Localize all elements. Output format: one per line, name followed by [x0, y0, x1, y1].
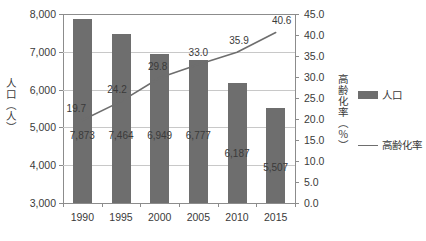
right-axis-tick-label: 25.0	[304, 93, 324, 104]
left-axis-tick-label: 6,000	[30, 85, 56, 96]
right-axis-tick	[295, 98, 299, 99]
right-axis-tick	[295, 35, 299, 36]
left-axis-tick-label: 8,000	[30, 9, 56, 20]
right-axis-tick-label: 20.0	[304, 114, 324, 125]
legend-item-aging-rate[interactable]: 高齢化率	[358, 134, 424, 156]
right-axis-title: 高齢化率（％）	[336, 74, 348, 166]
x-axis-tick-label: 2015	[253, 212, 299, 223]
x-axis-tick	[63, 203, 64, 207]
bar-swatch-icon	[358, 91, 378, 99]
right-axis-tick	[295, 14, 299, 15]
right-axis-tick	[295, 56, 299, 57]
chart-legend: 人口 高齢化率	[358, 84, 424, 156]
legend-label-population: 人口	[382, 90, 402, 101]
legend-item-population[interactable]: 人口	[358, 84, 424, 106]
x-axis-tick	[102, 203, 103, 207]
line-value-label: 24.2	[97, 85, 137, 95]
left-axis-title: 人口（人）	[4, 78, 16, 162]
line-series	[63, 14, 295, 203]
right-axis-tick	[295, 119, 299, 120]
right-axis-tick-label: 0.0	[304, 198, 319, 209]
bar-value-label: 6,187	[214, 149, 260, 159]
right-axis-tick-label: 5.0	[304, 177, 319, 188]
right-axis-tick	[295, 77, 299, 78]
x-axis-tick	[140, 203, 141, 207]
combo-chart: 人口（人） 高齢化率（％） 3,0004,0005,0006,0007,0008…	[0, 0, 426, 241]
right-axis-tick-label: 30.0	[304, 72, 324, 83]
right-axis-tick-label: 10.0	[304, 156, 324, 167]
right-axis-tick-label: 45.0	[304, 9, 324, 20]
left-axis-tick-label: 3,000	[30, 198, 56, 209]
right-axis-tick-label: 35.0	[304, 51, 324, 62]
bar-value-label: 5,507	[253, 163, 299, 173]
x-axis-tick	[256, 203, 257, 207]
left-axis-tick-label: 7,000	[30, 47, 56, 58]
plot-frame-right	[295, 14, 296, 203]
x-axis-tick	[218, 203, 219, 207]
right-axis-tick-label: 40.0	[304, 30, 324, 41]
line-value-label: 29.8	[138, 62, 178, 72]
right-axis-tick-label: 15.0	[304, 135, 324, 146]
x-axis-tick	[295, 203, 296, 207]
legend-label-aging-rate: 高齢化率	[382, 140, 422, 151]
x-axis-tick	[179, 203, 180, 207]
line-value-label: 40.6	[262, 16, 302, 26]
line-value-label: 19.7	[56, 104, 96, 114]
right-axis-tick	[295, 161, 299, 162]
bar-value-label: 6,777	[175, 131, 221, 141]
line-value-label: 33.0	[178, 48, 218, 58]
line-swatch-icon	[358, 145, 378, 146]
left-axis-tick-label: 4,000	[30, 160, 56, 171]
plot-area	[63, 14, 295, 203]
line-value-label: 35.9	[219, 36, 259, 46]
right-axis-tick	[295, 182, 299, 183]
left-axis-tick-label: 5,000	[30, 122, 56, 133]
right-axis-tick	[295, 140, 299, 141]
